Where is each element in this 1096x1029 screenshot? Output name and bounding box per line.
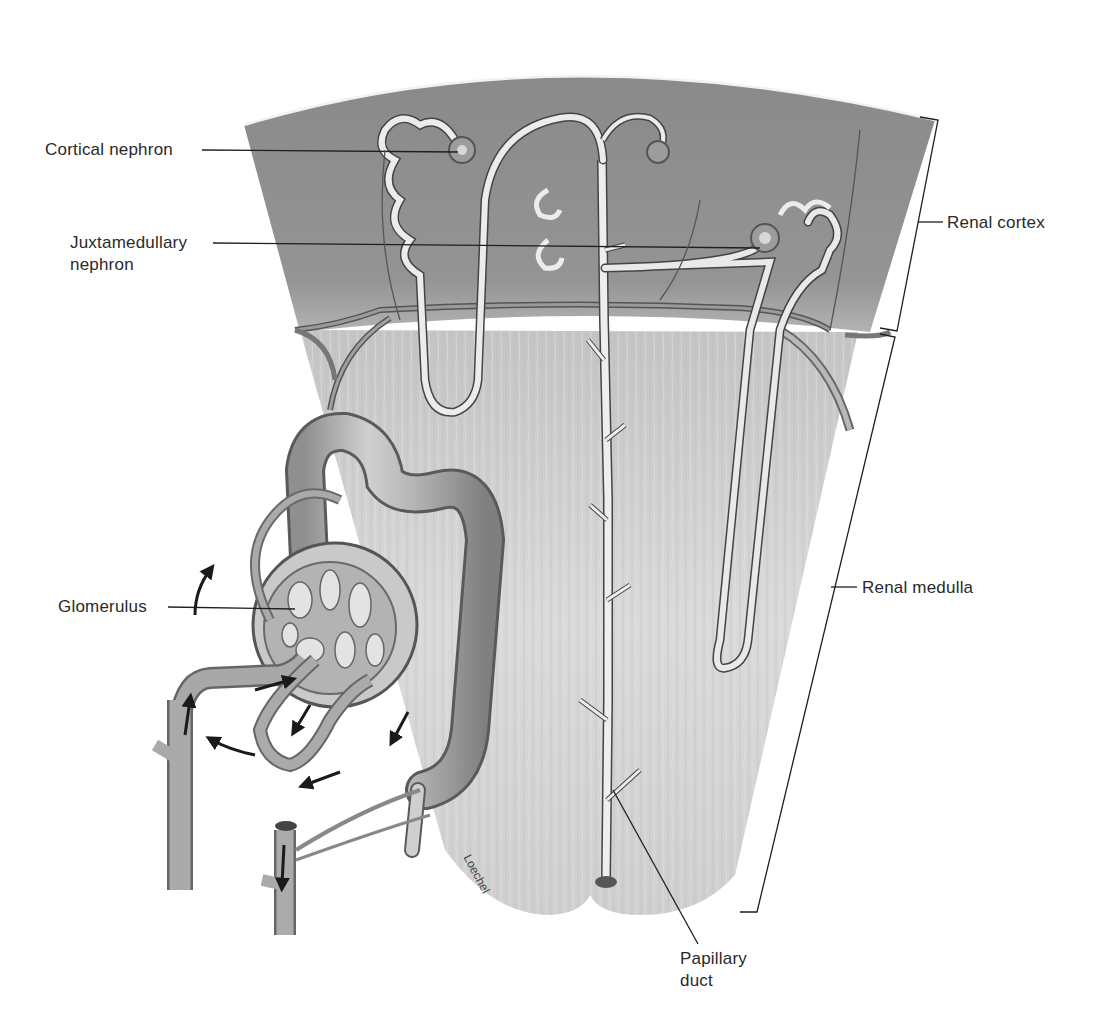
label-cortical-nephron: Cortical nephron [45, 139, 173, 160]
flow-arrow [393, 712, 408, 740]
label-juxtamedullary-nephron-line1: Juxtamedullary [70, 232, 187, 253]
label-renal-medulla: Renal medulla [862, 577, 973, 598]
cortex-shape [244, 76, 935, 332]
renal-cortex-region [244, 76, 935, 332]
papillary-duct-opening [595, 876, 617, 888]
flow-arrow [295, 705, 310, 730]
label-renal-cortex: Renal cortex [947, 212, 1045, 233]
label-glomerulus: Glomerulus [58, 596, 147, 617]
flow-arrow [282, 845, 284, 885]
flow-arrow [305, 772, 340, 785]
label-papillary-duct-line2: duct [680, 970, 713, 991]
label-papillary-duct-line1: Papillary [680, 948, 747, 969]
flow-arrow [212, 740, 255, 755]
label-juxtamedullary-nephron-line2: nephron [70, 254, 134, 275]
